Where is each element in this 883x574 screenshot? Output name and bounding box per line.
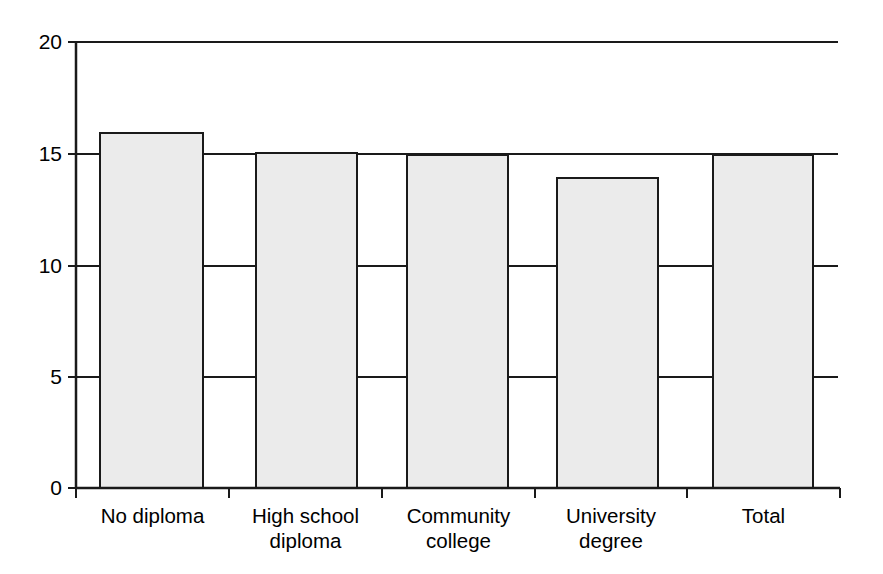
- chart-canvas: [0, 0, 883, 574]
- x-category-label-total: Total: [687, 503, 840, 528]
- bar-total: [713, 155, 813, 488]
- x-category-label-high-school-diploma: High school diploma: [229, 503, 382, 553]
- x-tick-marks: [76, 488, 840, 498]
- x-category-label-no-diploma: No diploma: [76, 503, 229, 528]
- bar-no-diploma: [100, 133, 203, 488]
- x-category-label-community-college: Community college: [382, 503, 535, 553]
- bar-chart: 20 15 10 5 0 No diploma High school dipl…: [0, 0, 883, 574]
- y-tick-label-15: 15: [18, 143, 62, 164]
- y-tick-label-5: 5: [18, 366, 62, 387]
- bar-community-college: [407, 155, 508, 488]
- y-tick-label-0: 0: [18, 477, 62, 498]
- bar-high-school-diploma: [256, 153, 357, 488]
- y-tick-label-20: 20: [18, 31, 62, 52]
- y-tick-label-10: 10: [18, 255, 62, 276]
- bar-series: [100, 133, 813, 488]
- x-category-label-university-degree: University degree: [535, 503, 687, 553]
- bar-university-degree: [557, 178, 658, 488]
